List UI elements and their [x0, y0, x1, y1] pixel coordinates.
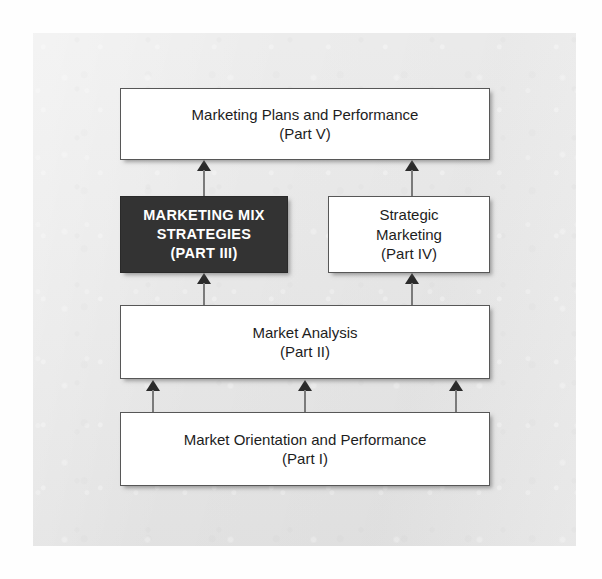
node-label: Strategic Marketing (Part IV)	[366, 205, 452, 264]
node-line-2: (Part V)	[192, 124, 419, 144]
node-label: Marketing Plans and Performance (Part V)	[182, 105, 429, 144]
arrow-shaft	[203, 283, 205, 306]
arrow-shaft	[455, 390, 457, 413]
node-line-2: (Part I)	[184, 449, 427, 469]
arrow-up-icon-orientation-to-analysis-left	[146, 380, 160, 413]
arrow-up-icon-analysis-to-mix	[197, 273, 211, 306]
node-label: Market Analysis (Part II)	[242, 323, 367, 362]
arrow-up-icon-orientation-to-analysis-center	[298, 380, 312, 413]
arrow-up-icon-analysis-to-strategic	[405, 273, 419, 306]
node-marketing-plans-and-performance[interactable]: Marketing Plans and Performance (Part V)	[120, 88, 490, 160]
node-line-1: Marketing Plans and Performance	[192, 106, 419, 123]
arrow-shaft	[203, 170, 205, 197]
arrow-shaft	[152, 390, 154, 413]
arrow-up-icon-mix-to-plans	[197, 160, 211, 197]
node-label: MARKETING MIX STRATEGIES (PART III)	[133, 206, 275, 263]
node-marketing-mix-strategies[interactable]: MARKETING MIX STRATEGIES (PART III)	[120, 196, 288, 273]
arrow-up-icon-strategic-to-plans	[405, 160, 419, 197]
node-line-3: (Part IV)	[376, 244, 442, 264]
node-line-2: (Part II)	[252, 342, 357, 362]
scan-page: Marketing Plans and Performance (Part V)…	[0, 0, 602, 579]
node-line-1: Market Analysis	[252, 324, 357, 341]
node-line-1: MARKETING MIX	[143, 207, 265, 223]
node-label: Market Orientation and Performance (Part…	[174, 430, 437, 469]
node-market-orientation-and-performance[interactable]: Market Orientation and Performance (Part…	[120, 412, 490, 486]
arrow-shaft	[411, 283, 413, 306]
node-line-2: STRATEGIES	[143, 225, 265, 244]
arrow-shaft	[304, 390, 306, 413]
node-line-3: (PART III)	[143, 244, 265, 263]
node-line-2: Marketing	[376, 225, 442, 245]
arrow-up-icon-orientation-to-analysis-right	[449, 380, 463, 413]
node-market-analysis[interactable]: Market Analysis (Part II)	[120, 305, 490, 379]
arrow-shaft	[411, 170, 413, 197]
node-line-1: Market Orientation and Performance	[184, 431, 427, 448]
node-line-1: Strategic	[379, 206, 438, 223]
node-strategic-marketing[interactable]: Strategic Marketing (Part IV)	[328, 196, 490, 273]
